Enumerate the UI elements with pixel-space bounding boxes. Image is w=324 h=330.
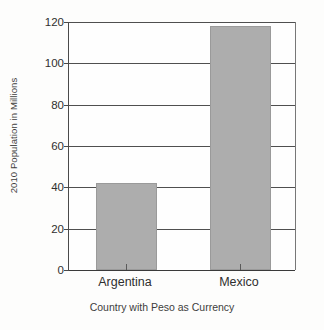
y-tick-mark-20 (64, 229, 69, 230)
x-axis-title: Country with Peso as Currency (0, 301, 324, 313)
y-tick-label-120: 120 (30, 17, 64, 28)
bar-chart-figure: 2010 Population in Millions 020406080100… (0, 0, 324, 330)
y-tick-label-40: 40 (30, 182, 64, 193)
bar-mexico (210, 26, 271, 270)
y-tick-label-80: 80 (30, 99, 64, 110)
gridline-0 (69, 270, 295, 271)
x-tick-mark-argentina (126, 264, 127, 270)
y-tick-label-0: 0 (30, 265, 64, 276)
y-tick-mark-100 (64, 63, 69, 64)
y-tick-label-20: 20 (30, 223, 64, 234)
x-tick-label-mexico: Mexico (182, 274, 296, 290)
y-axis-tick-labels: 020406080100120 (30, 0, 64, 330)
x-tick-label-argentina: Argentina (68, 274, 182, 290)
y-tick-mark-60 (64, 146, 69, 147)
y-axis-title: 2010 Population in Millions (0, 0, 28, 270)
y-axis-title-text: 2010 Population in Millions (9, 77, 20, 193)
y-tick-mark-80 (64, 105, 69, 106)
y-tick-label-60: 60 (30, 141, 64, 152)
y-tick-mark-40 (64, 187, 69, 188)
bar-argentina (96, 183, 157, 270)
x-tick-mark-mexico (240, 264, 241, 270)
y-tick-label-100: 100 (30, 58, 64, 69)
gridline-120 (69, 22, 295, 23)
y-tick-mark-120 (64, 22, 69, 23)
y-tick-mark-0 (64, 270, 69, 271)
plot-area (68, 22, 296, 270)
x-axis-tick-labels: ArgentinaMexico (68, 274, 296, 294)
